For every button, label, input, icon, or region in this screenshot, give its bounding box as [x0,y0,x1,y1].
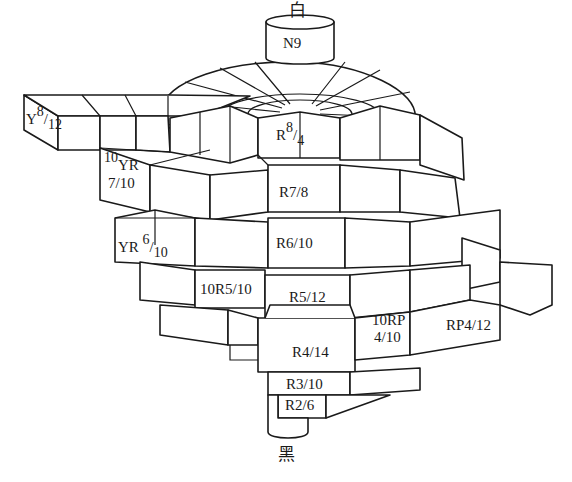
munsell-color-solid-diagram: 白 N9 Y8/12 R8/4 10YR 7/10 YR 6/10 R7/8 R… [0,0,572,482]
chip-r-7-8: R7/8 [279,185,308,200]
chip-r-8-4: R8/4 [276,128,304,143]
value-4-ring [160,300,500,372]
chip-10rp-4-10-hue: 10RP [372,313,405,328]
chip-y-8-12: Y8/12 [26,112,62,127]
chip-10yr-7-10: 10YR [104,158,139,173]
chip-yr-6-10: YR 6/10 [118,240,168,255]
chip-r-5-12: R5/12 [289,290,326,305]
chip-10rp-4-10-value: 4/10 [374,330,401,345]
chip-r-4-14: R4/14 [292,345,329,360]
chip-r-3-10: R3/10 [286,377,323,392]
white-label: 白 [289,2,306,19]
chip-10yr-7-10-value: 7/10 [108,176,135,191]
chip-r-2-6: R2/6 [285,398,314,413]
chip-rp-4-12: RP4/12 [446,318,491,333]
neutral-n9-label: N9 [283,36,301,51]
chip-r-6-10: R6/10 [276,236,313,251]
chip-10r-5-10: 10R5/10 [200,282,252,297]
black-label: 黑 [278,446,295,463]
